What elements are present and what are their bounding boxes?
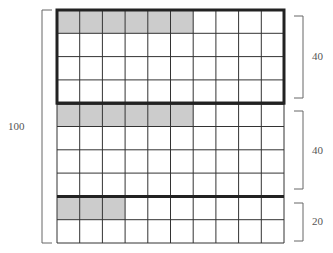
shaded-cell — [125, 103, 148, 126]
shaded-cell — [57, 103, 80, 126]
total-label: 100 — [8, 120, 25, 132]
shaded-cell — [57, 10, 80, 33]
shaded-cell — [171, 103, 194, 126]
shaded-cell — [80, 10, 103, 33]
group-2-label: 40 — [312, 144, 324, 156]
shaded-cell — [148, 10, 171, 33]
shaded-cell — [102, 196, 125, 219]
group-1-bracket — [294, 16, 303, 98]
group-3-bracket — [294, 203, 303, 241]
total-bracket — [42, 10, 52, 243]
proportion-grid-diagram: 100 40 40 20 — [0, 0, 333, 253]
shaded-cell — [125, 10, 148, 33]
shaded-cell — [102, 10, 125, 33]
shaded-cell — [57, 196, 80, 219]
shaded-cell — [171, 10, 194, 33]
group-3-label: 20 — [312, 215, 324, 227]
shaded-cell — [148, 103, 171, 126]
shaded-cell — [102, 103, 125, 126]
shaded-cell — [80, 103, 103, 126]
shaded-cell — [80, 196, 103, 219]
group-2-bracket — [294, 111, 303, 189]
group-1-label: 40 — [312, 50, 324, 62]
